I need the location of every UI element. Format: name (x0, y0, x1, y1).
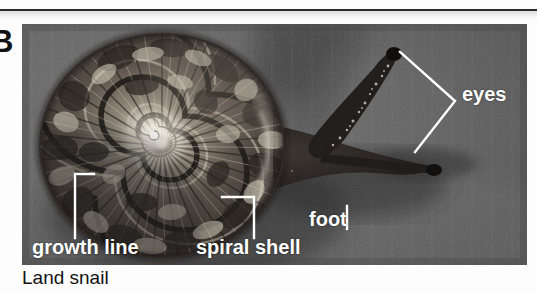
top-rule-shadow (0, 11, 537, 20)
label-foot: foot (309, 209, 347, 229)
snail-photograph (22, 24, 527, 265)
label-spiral-shell: spiral shell (196, 237, 301, 257)
figure-caption: Land snail (22, 268, 109, 287)
panel-letter-label: B (0, 26, 12, 57)
snail-photo-graphic (22, 24, 527, 265)
label-eyes: eyes (462, 84, 507, 104)
figure-panel: B (0, 0, 537, 294)
label-growth-line: growth line (32, 237, 139, 257)
